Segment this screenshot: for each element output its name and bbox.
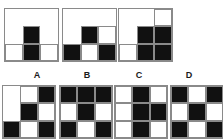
- option-label-c: C: [130, 70, 148, 81]
- option-a-cell-r2c3: [38, 103, 55, 120]
- option-panel-b[interactable]: [59, 85, 113, 139]
- option-a-cell-r2c1: [3, 103, 20, 120]
- option-b-cell-r1c1: [60, 86, 77, 103]
- option-c-cell-r1c1: [115, 86, 132, 103]
- prompt-1-cell-r2c2: [23, 26, 41, 43]
- option-b-cell-r2c2: [77, 103, 94, 120]
- option-b-cell-r3c2: [77, 121, 94, 138]
- option-c-cell-r1c3: [150, 86, 167, 103]
- option-c-cell-r3c2: [132, 121, 149, 138]
- option-d-cell-r1c2: [188, 86, 205, 103]
- option-a-cell-r3c1: [3, 121, 20, 138]
- option-a-cell-r1c3: [38, 86, 55, 103]
- prompt-3-cell-r3c2: [137, 44, 155, 61]
- option-panel-d[interactable]: [170, 85, 223, 139]
- option-label-d: D: [180, 70, 198, 81]
- prompt-3-cell-r3c1: [119, 44, 137, 61]
- prompt-2-cell-r3c2: [81, 44, 99, 61]
- option-d-cell-r3c3: [206, 121, 223, 138]
- option-b-cell-r3c3: [95, 121, 112, 138]
- option-d-cell-r2c1: [171, 103, 188, 120]
- option-b-cell-r2c3: [95, 103, 112, 120]
- option-panel-a[interactable]: [2, 85, 56, 139]
- option-d-grid: [171, 86, 223, 138]
- prompt-1-cell-r2c3: [40, 26, 58, 43]
- prompt-panel-2: [62, 8, 117, 62]
- prompt-1-cell-r2c1: [5, 26, 23, 43]
- prompt-2-cell-r1c3: [98, 9, 116, 26]
- option-b-cell-r3c1: [60, 121, 77, 138]
- prompt-1-cell-r1c1: [5, 9, 23, 26]
- option-c-cell-r3c1: [115, 121, 132, 138]
- prompt-3-cell-r3c3: [154, 44, 172, 61]
- option-b-cell-r1c3: [95, 86, 112, 103]
- option-d-cell-r1c1: [171, 86, 188, 103]
- prompt-2-cell-r2c3: [98, 26, 116, 43]
- option-c-cell-r3c3: [150, 121, 167, 138]
- prompt-2-cell-r2c2: [81, 26, 99, 43]
- option-c-cell-r2c3: [150, 103, 167, 120]
- option-panel-c[interactable]: [114, 85, 168, 139]
- option-a-cell-r3c3: [38, 121, 55, 138]
- prompt-2-cell-r3c1: [63, 44, 81, 61]
- option-c-cell-r1c2: [132, 86, 149, 103]
- prompt-3-cell-r2c3: [154, 26, 172, 43]
- option-c-grid: [115, 86, 167, 138]
- option-a-cell-r1c1: [3, 86, 20, 103]
- option-a-cell-r2c2: [20, 103, 37, 120]
- prompt-3-cell-r2c1: [119, 26, 137, 43]
- prompt-3-cell-r1c3: [154, 9, 172, 26]
- prompt-panel-3-grid: [119, 9, 172, 61]
- option-c-cell-r2c1: [115, 103, 132, 120]
- option-d-cell-r1c3: [206, 86, 223, 103]
- option-d-cell-r2c3: [206, 103, 223, 120]
- prompt-1-cell-r1c3: [40, 9, 58, 26]
- option-c-cell-r2c2: [132, 103, 149, 120]
- prompt-panel-1-grid: [5, 9, 58, 61]
- prompt-1-cell-r3c1: [5, 44, 23, 61]
- prompt-3-cell-r1c1: [119, 9, 137, 26]
- prompt-3-cell-r1c2: [137, 9, 155, 26]
- prompt-panel-3: [118, 8, 173, 62]
- prompt-2-cell-r2c1: [63, 26, 81, 43]
- prompt-panel-1: [4, 8, 59, 62]
- option-b-cell-r2c1: [60, 103, 77, 120]
- option-d-cell-r2c2: [188, 103, 205, 120]
- prompt-3-cell-r2c2: [137, 26, 155, 43]
- prompt-1-cell-r3c3: [40, 44, 58, 61]
- prompt-2-cell-r3c3: [98, 44, 116, 61]
- prompt-1-cell-r3c2: [23, 44, 41, 61]
- puzzle-stage: A B C D: [0, 0, 223, 140]
- option-b-cell-r1c2: [77, 86, 94, 103]
- prompt-2-cell-r1c2: [81, 9, 99, 26]
- prompt-1-cell-r1c2: [23, 9, 41, 26]
- option-label-a: A: [28, 70, 46, 81]
- option-d-cell-r3c2: [188, 121, 205, 138]
- prompt-panel-2-grid: [63, 9, 116, 61]
- option-a-grid: [3, 86, 55, 138]
- prompt-2-cell-r1c1: [63, 9, 81, 26]
- option-b-grid: [60, 86, 112, 138]
- option-d-cell-r3c1: [171, 121, 188, 138]
- option-a-cell-r3c2: [20, 121, 37, 138]
- option-label-b: B: [78, 70, 96, 81]
- option-a-cell-r1c2: [20, 86, 37, 103]
